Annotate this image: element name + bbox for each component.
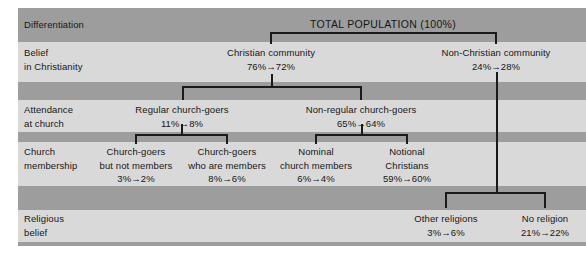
connector-total-horizontal [270, 32, 497, 34]
node-notional-christians-label2: Christians [383, 159, 431, 173]
connector-to-not-members [135, 134, 137, 144]
node-christian-community-label: Christian community [227, 46, 315, 60]
node-total-population-label: TOTAL POPULATION (100%) [310, 18, 456, 32]
connector-regular-horizontal [135, 134, 228, 136]
node-church-goers-not-members: Church-goers but not members 3%→2% [100, 145, 173, 186]
node-christian-community-value: 76%→72% [227, 60, 315, 74]
node-nominal-church-members: Nominal church members 6%→4% [280, 145, 352, 186]
node-non-christian-community-value: 24%→28% [442, 60, 551, 74]
node-church-goers-are-members-label1: Church-goers [188, 145, 266, 159]
connector-attendance-horizontal [182, 86, 362, 88]
connector-to-notional [406, 134, 408, 144]
node-nominal-church-members-label1: Nominal [280, 145, 352, 159]
row-label-line1: Differentiation [24, 19, 84, 30]
node-no-religion-label: No religion [521, 212, 569, 226]
row-label-religious: Religious belief [24, 212, 64, 239]
connector-to-no-religion [544, 192, 546, 208]
tree-diagram: Differentiation Belief in Christianity A… [18, 8, 586, 246]
connector-christian-stem [271, 74, 273, 86]
band-separator-religious [18, 186, 586, 210]
node-non-christian-community: Non-Christian community 24%→28% [442, 46, 551, 73]
node-church-goers-are-members-label2: who are members [188, 159, 266, 173]
node-nominal-church-members-label2: church members [280, 159, 352, 173]
node-no-religion-value: 21%→22% [521, 226, 569, 240]
band-separator-attendance [18, 82, 586, 100]
band-footer [18, 242, 586, 246]
node-nominal-church-members-value: 6%→4% [280, 172, 352, 186]
connector-to-nominal [315, 134, 317, 144]
node-notional-christians-label1: Notional [383, 145, 431, 159]
node-regular-church-goers-value: 11%→8% [135, 117, 228, 131]
row-label-line1: Church [24, 146, 55, 157]
connector-nonchristian-stem [496, 72, 498, 194]
row-label-line1: Attendance [24, 104, 73, 115]
connector-to-nonregular [360, 86, 362, 100]
node-other-religions: Other religions 3%→6% [414, 212, 477, 239]
band-separator-membership [18, 132, 586, 142]
band-attendance [18, 100, 586, 132]
row-label-line2: at church [24, 118, 64, 129]
node-non-christian-community-label: Non-Christian community [442, 46, 551, 60]
connector-to-regular [182, 86, 184, 100]
connector-to-other-religions [445, 192, 447, 208]
connector-religious-horizontal [445, 192, 546, 194]
node-non-regular-church-goers-value: 65%→64% [306, 117, 417, 131]
node-notional-christians: Notional Christians 59%→60% [383, 145, 431, 186]
connector-total-to-christian [270, 32, 272, 44]
row-label-attendance: Attendance at church [24, 103, 73, 130]
row-label-line2: in Christianity [24, 61, 83, 72]
row-label-line1: Religious [24, 213, 64, 224]
node-regular-church-goers-label: Regular church-goers [135, 103, 228, 117]
band-religious [18, 210, 586, 242]
node-church-goers-are-members-value: 8%→6% [188, 172, 266, 186]
row-label-line1: Belief [24, 47, 48, 58]
row-label-membership: Church membership [24, 145, 77, 172]
row-label-line2: membership [24, 160, 77, 171]
row-label-differentiation: Differentiation [24, 18, 84, 32]
band-differentiation [18, 8, 586, 42]
node-church-goers-not-members-label2: but not members [100, 159, 173, 173]
node-no-religion: No religion 21%→22% [521, 212, 569, 239]
node-non-regular-church-goers: Non-regular church-goers 65%→64% [306, 103, 417, 130]
row-label-belief: Belief in Christianity [24, 46, 83, 73]
node-total-population: TOTAL POPULATION (100%) [310, 18, 456, 32]
node-non-regular-church-goers-label: Non-regular church-goers [306, 103, 417, 117]
node-church-goers-not-members-label1: Church-goers [100, 145, 173, 159]
connector-nonregular-horizontal [315, 134, 408, 136]
row-label-line2: belief [24, 227, 47, 238]
node-christian-community: Christian community 76%→72% [227, 46, 315, 73]
node-other-religions-value: 3%→6% [414, 226, 477, 240]
connector-to-are-members [226, 134, 228, 144]
node-church-goers-are-members: Church-goers who are members 8%→6% [188, 145, 266, 186]
node-church-goers-not-members-value: 3%→2% [100, 172, 173, 186]
connector-total-to-nonchristian [495, 32, 497, 44]
node-regular-church-goers: Regular church-goers 11%→8% [135, 103, 228, 130]
node-other-religions-label: Other religions [414, 212, 477, 226]
node-notional-christians-value: 59%→60% [383, 172, 431, 186]
